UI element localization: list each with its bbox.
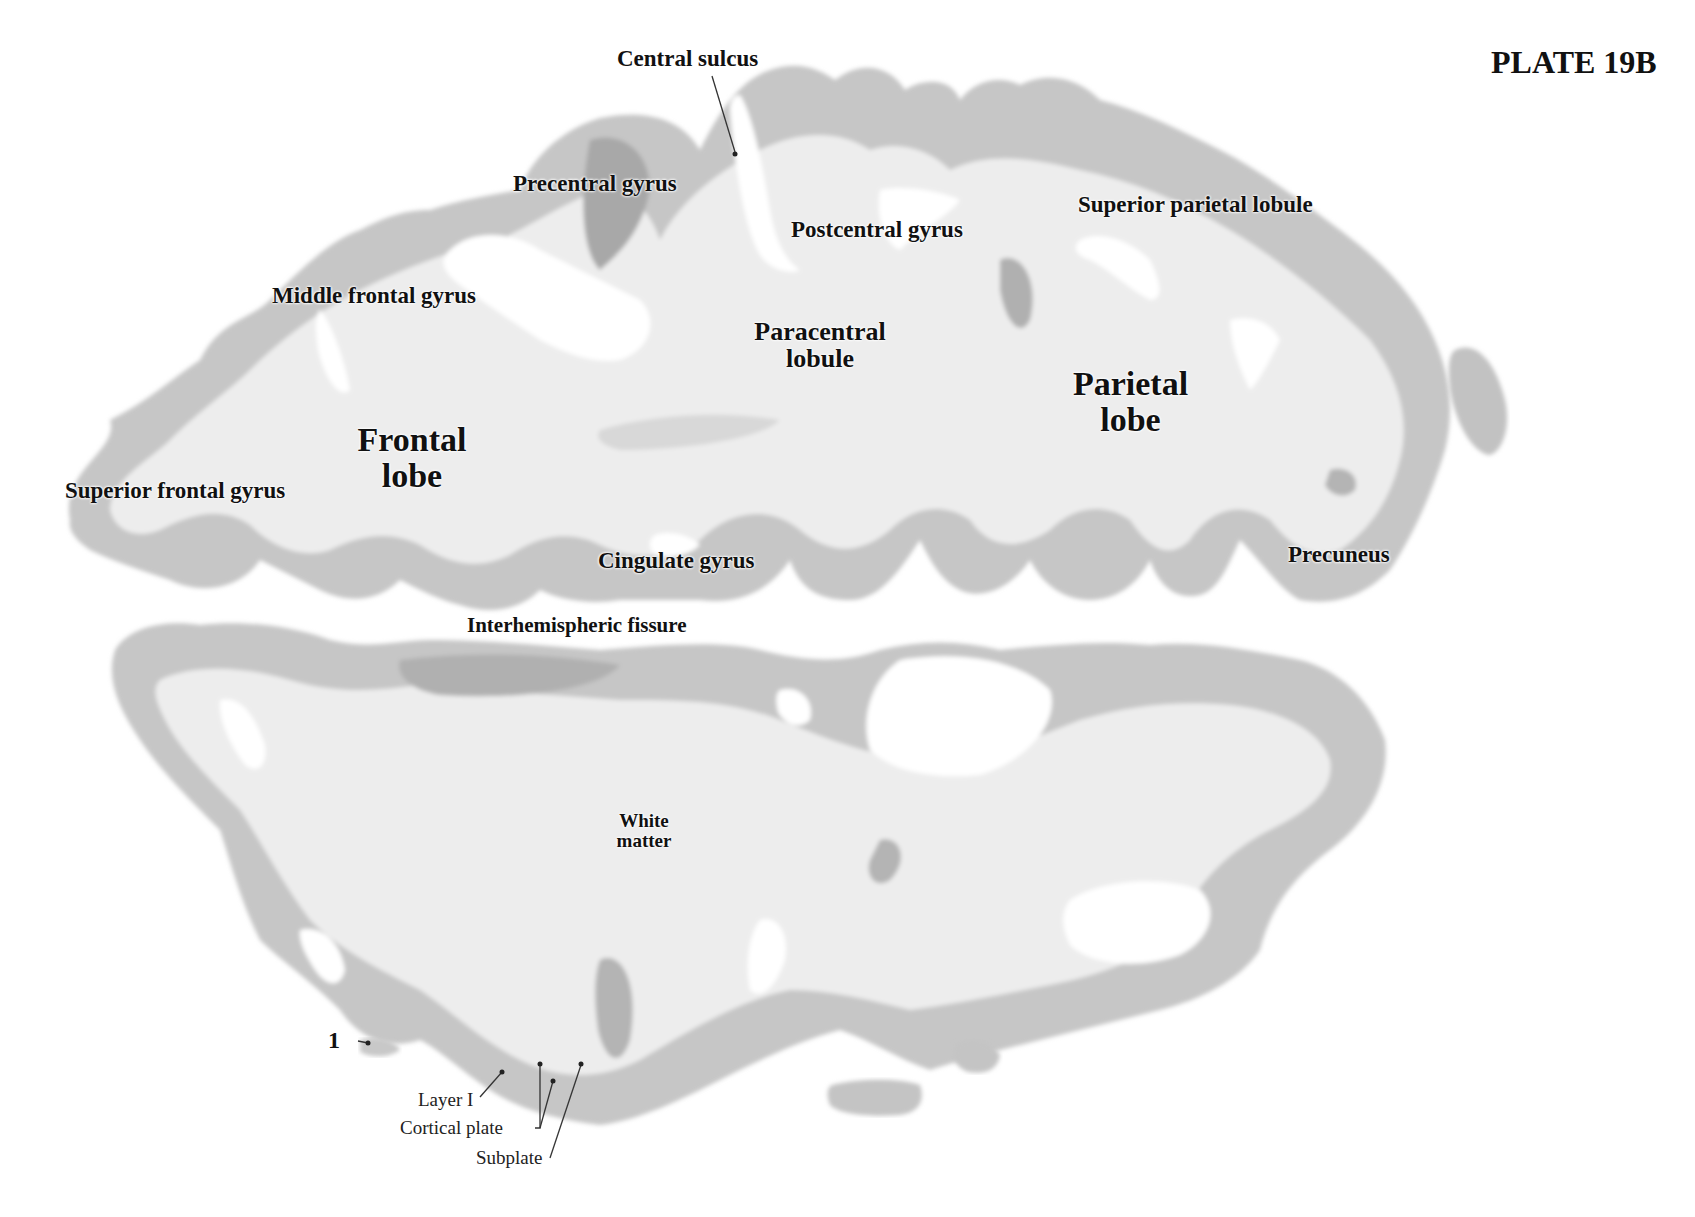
label-white-matter: White matter [594,811,694,851]
label-frontal-line1: Frontal [342,422,482,458]
detached-gyrus-fragment [1449,347,1507,455]
label-superior-frontal-gyrus: Superior frontal gyrus [65,479,285,503]
lower-hemisphere [112,623,1386,1125]
label-precuneus: Precuneus [1288,543,1390,567]
label-central-sulcus: Central sulcus [617,47,758,71]
label-paracentral-line2: lobule [735,345,905,372]
label-white-matter-line2: matter [594,831,694,851]
plate-title: PLATE 19B [1491,44,1657,81]
label-parietal-line1: Parietal [1058,366,1203,402]
label-white-matter-line1: White [594,811,694,831]
label-cingulate-gyrus: Cingulate gyrus [598,549,755,573]
label-frontal-lobe: Frontal lobe [342,422,482,493]
label-paracentral-lobule: Paracentral lobule [735,318,905,373]
brain-section-illustration [0,0,1695,1217]
label-subplate: Subplate [476,1148,543,1168]
fragment-oval [828,1080,922,1116]
label-postcentral-gyrus: Postcentral gyrus [791,218,963,242]
label-cortical-plate: Cortical plate [400,1118,503,1138]
label-paracentral-line1: Paracentral [735,318,905,345]
label-marker-1: 1 [328,1028,340,1053]
label-parietal-line2: lobe [1058,402,1203,438]
brain-section-plate: PLATE 19B Central sulcus Precentral gyru… [0,0,1695,1217]
label-layer-i: Layer I [418,1090,473,1110]
label-middle-frontal-gyrus: Middle frontal gyrus [272,284,476,308]
label-superior-parietal-lobule: Superior parietal lobule [1078,193,1313,217]
label-parietal-lobe: Parietal lobe [1058,366,1203,437]
label-interhemispheric-fissure: Interhemispheric fissure [467,614,687,636]
label-precentral-gyrus: Precentral gyrus [513,172,677,196]
label-frontal-line2: lobe [342,458,482,494]
